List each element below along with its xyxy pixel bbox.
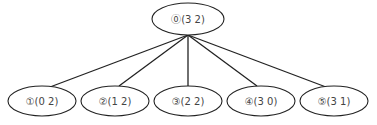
edges (50, 35, 326, 87)
tree-diagram: ⓪(3 2) ①(0 2) ②(1 2) ③(2 2) ④(3 0) ⑤(3 1… (0, 0, 377, 125)
edge-0-5 (188, 35, 326, 87)
child-node-5: ⑤(3 1) (300, 86, 368, 116)
root-node: ⓪(3 2) (152, 3, 224, 35)
child-node-5-label: ⑤(3 1) (318, 96, 351, 107)
child-node-3: ③(2 2) (154, 86, 222, 116)
child-node-2: ②(1 2) (81, 86, 149, 116)
edge-0-1 (50, 35, 188, 87)
child-node-4-label: ④(3 0) (245, 96, 278, 107)
child-node-2-label: ②(1 2) (99, 96, 132, 107)
child-node-1-label: ①(0 2) (26, 96, 59, 107)
child-node-3-label: ③(2 2) (172, 96, 205, 107)
root-node-label: ⓪(3 2) (171, 14, 205, 25)
edge-0-2 (119, 35, 188, 86)
child-node-1: ①(0 2) (8, 86, 76, 116)
edge-0-4 (188, 35, 257, 86)
child-node-4: ④(3 0) (227, 86, 295, 116)
